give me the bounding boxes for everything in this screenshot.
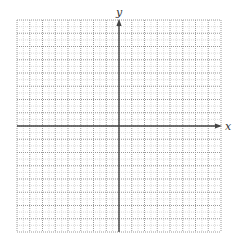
coordinate-plane: x y bbox=[0, 0, 237, 242]
x-axis-label: x bbox=[225, 120, 232, 133]
axes bbox=[17, 19, 222, 232]
y-axis-label: y bbox=[115, 6, 123, 19]
